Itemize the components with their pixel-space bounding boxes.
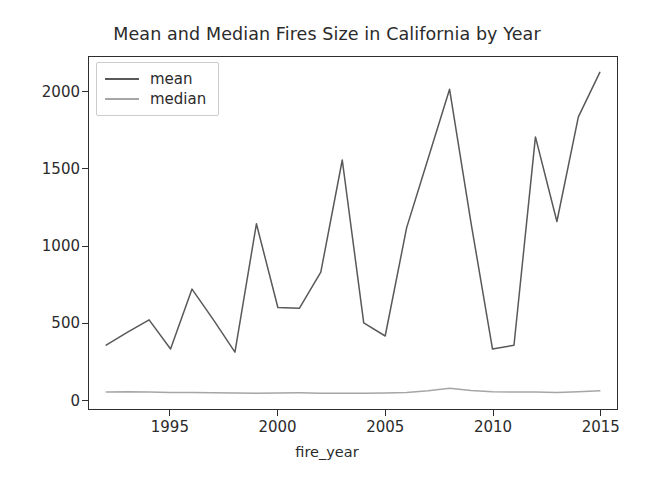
legend-label-mean: mean <box>150 69 193 89</box>
x-axis-tick-label: 2015 <box>556 418 646 436</box>
y-axis-tick-mark <box>82 91 88 92</box>
figure-canvas: Mean and Median Fires Size in California… <box>0 0 654 496</box>
x-axis-tick-mark <box>600 410 601 416</box>
y-axis-tick-mark <box>82 246 88 247</box>
legend-item-median: median <box>105 89 206 109</box>
legend-swatch-mean <box>105 78 139 80</box>
x-axis-tick-label: 2010 <box>448 418 538 436</box>
legend-swatch-median <box>105 98 139 100</box>
legend-item-mean: mean <box>105 69 206 89</box>
y-axis-tick-mark <box>82 323 88 324</box>
x-axis-tick-label: 1995 <box>125 418 215 436</box>
x-axis-tick-label: 2000 <box>233 418 323 436</box>
series-line-median <box>106 388 600 393</box>
x-axis-tick-mark <box>169 410 170 416</box>
x-axis-tick-label: 2005 <box>340 418 430 436</box>
y-axis-tick-mark <box>82 400 88 401</box>
y-axis-tick-mark <box>82 168 88 169</box>
x-axis-tick-mark <box>277 410 278 416</box>
legend-label-median: median <box>150 89 206 109</box>
chart-legend: mean median <box>96 62 219 116</box>
x-axis-label: fire_year <box>0 444 654 460</box>
x-axis-tick-mark <box>493 410 494 416</box>
x-axis-tick-mark <box>385 410 386 416</box>
